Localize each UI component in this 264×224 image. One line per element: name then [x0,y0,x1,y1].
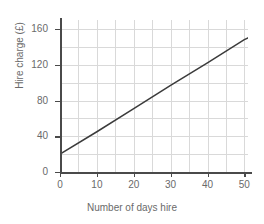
y-axis-line [60,18,62,174]
plot-area [60,20,248,172]
data-line-series [60,20,248,172]
x-tick-label: 0 [47,180,73,190]
y-tick-mark [55,101,60,102]
x-tick-mark [244,172,245,177]
x-axis-line [60,172,252,174]
x-axis-title: Number of days hire [0,202,264,213]
x-tick-label: 30 [158,180,184,190]
x-tick-mark [134,172,135,177]
y-tick-mark [55,136,60,137]
x-tick-mark [208,172,209,177]
line-chart: 04080120160 01020304050 Hire charge (£) … [0,0,264,224]
y-tick-label: 40 [12,131,48,141]
x-tick-mark [60,172,61,177]
y-tick-mark [55,65,60,66]
y-tick-mark [55,29,60,30]
y-tick-label: 0 [12,167,48,177]
x-tick-label: 10 [84,180,110,190]
y-axis-title: Hire charge (£) [14,0,25,121]
x-tick-label: 40 [195,180,221,190]
x-tick-mark [171,172,172,177]
x-tick-mark [97,172,98,177]
x-tick-label: 50 [231,180,257,190]
x-tick-label: 20 [121,180,147,190]
